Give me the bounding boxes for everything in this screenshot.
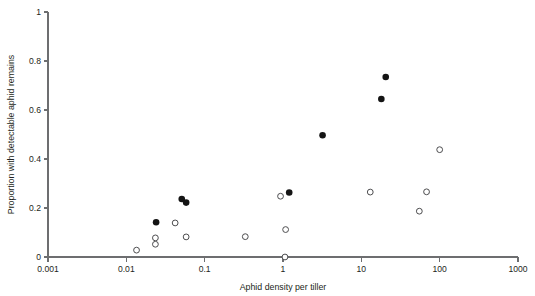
x-axis-title: Aphid density per tiller (240, 282, 327, 292)
data-point-open (183, 234, 189, 240)
data-point-filled (378, 96, 385, 103)
data-point-open (242, 234, 248, 240)
y-tick-label: 0.8 (29, 56, 41, 66)
data-point-open (172, 220, 178, 226)
x-tick-label: 0.01 (118, 264, 135, 274)
data-point-open (153, 235, 159, 241)
x-tick-label: 100 (432, 264, 447, 274)
x-tick-label: 0.001 (37, 264, 59, 274)
y-tick-label: 0.4 (29, 154, 41, 164)
data-point-open (437, 147, 443, 153)
data-point-open (367, 189, 373, 195)
series-open (134, 147, 443, 260)
y-tick-label: 0.6 (29, 105, 41, 115)
y-axis-title: Proportion with detectable aphid remains (6, 54, 16, 214)
series-filled (153, 74, 389, 226)
data-point-open (424, 189, 430, 195)
data-point-open (283, 227, 289, 233)
data-point-filled (153, 219, 160, 226)
y-tick-label: 0.2 (29, 203, 41, 213)
plot-canvas: 00.20.40.60.810.0010.010.11101001000Aphi… (0, 0, 535, 296)
data-point-open (278, 193, 284, 199)
data-point-open (416, 208, 422, 214)
x-tick-label: 1000 (508, 264, 527, 274)
x-tick-label: 1 (281, 264, 286, 274)
data-point-open (134, 247, 140, 253)
data-point-filled (382, 74, 389, 81)
y-tick-label: 1 (36, 7, 41, 17)
data-point-filled (319, 132, 326, 139)
y-tick-label: 0 (36, 252, 41, 262)
data-point-filled (286, 189, 293, 196)
data-point-filled (183, 199, 190, 206)
data-point-open (153, 241, 159, 247)
data-point-open (282, 254, 288, 260)
x-tick-label: 10 (357, 264, 367, 274)
x-tick-label: 0.1 (199, 264, 211, 274)
scatter-plot-figure: 00.20.40.60.810.0010.010.11101001000Aphi… (0, 0, 535, 296)
